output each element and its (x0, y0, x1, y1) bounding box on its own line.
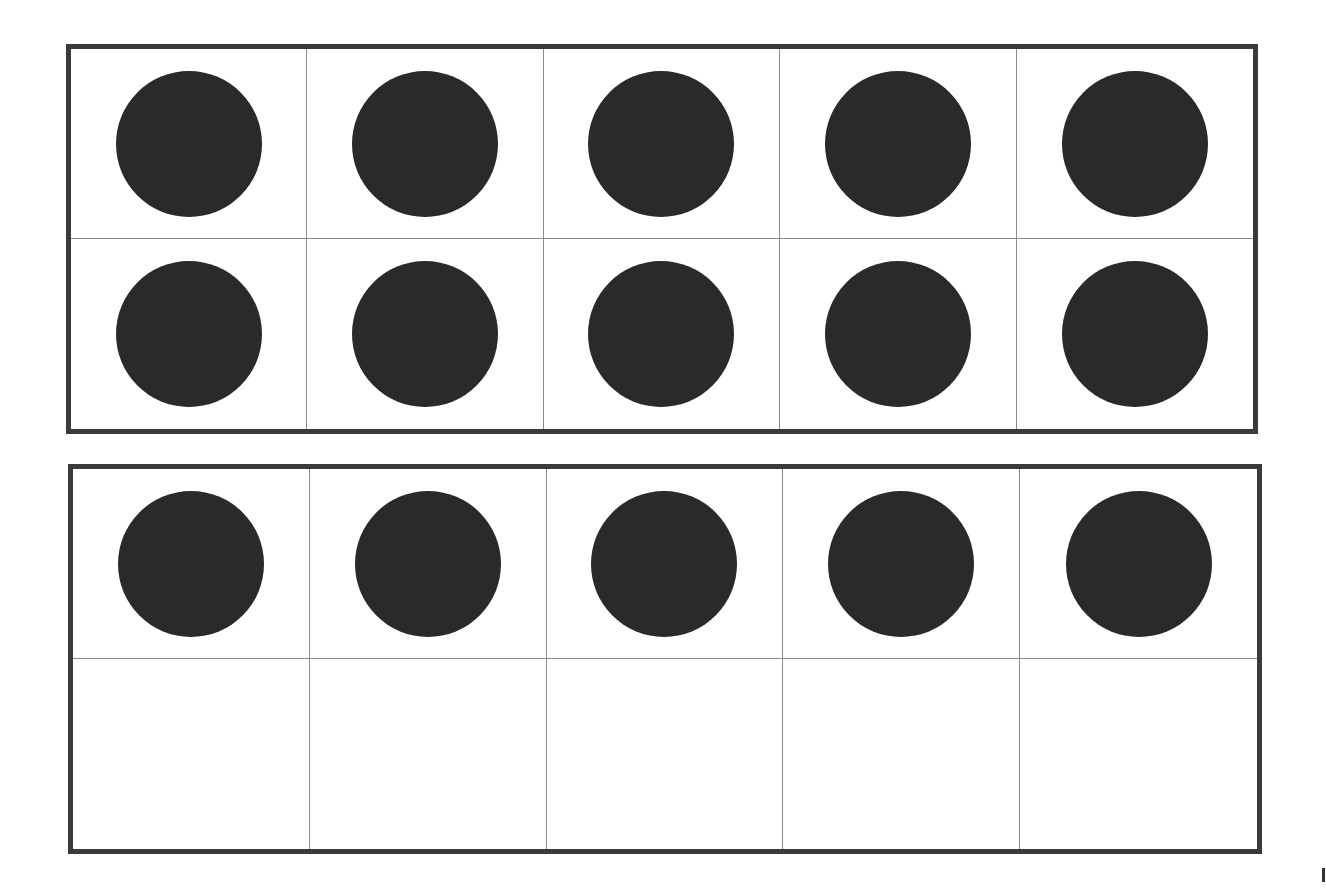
counter-dot-icon (118, 491, 264, 637)
counter-dot-icon (825, 71, 971, 217)
frame-cell (544, 239, 780, 429)
frame-cell (310, 659, 547, 849)
counter-dot-icon (825, 261, 971, 407)
frame-cell (73, 659, 310, 849)
frame-cell (310, 469, 547, 659)
counter-dot-icon (588, 71, 734, 217)
counter-dot-icon (1062, 261, 1208, 407)
frame-cell (71, 49, 307, 239)
counter-dot-icon (591, 491, 737, 637)
frame-cell (783, 469, 1020, 659)
frame-cell (1020, 469, 1257, 659)
counter-dot-icon (116, 71, 262, 217)
frame-cell (307, 49, 543, 239)
counter-dot-icon (588, 261, 734, 407)
edge-mark (1322, 868, 1325, 882)
frame-cell (780, 239, 1016, 429)
ten-frame-1 (66, 44, 1258, 434)
frame-cell (307, 239, 543, 429)
frame-cell (1017, 49, 1253, 239)
counter-dot-icon (1062, 71, 1208, 217)
counter-dot-icon (355, 491, 501, 637)
counter-dot-icon (116, 261, 262, 407)
frame-cell (547, 659, 784, 849)
frame-cell (783, 659, 1020, 849)
counter-dot-icon (828, 491, 974, 637)
ten-frame-2 (68, 464, 1262, 854)
frame-cell (544, 49, 780, 239)
counter-dot-icon (352, 261, 498, 407)
counter-dot-icon (1066, 491, 1212, 637)
frame-cell (73, 469, 310, 659)
frame-cell (547, 469, 784, 659)
frame-cell (71, 239, 307, 429)
counter-dot-icon (352, 71, 498, 217)
frame-cell (1017, 239, 1253, 429)
frame-cell (780, 49, 1016, 239)
frame-cell (1020, 659, 1257, 849)
